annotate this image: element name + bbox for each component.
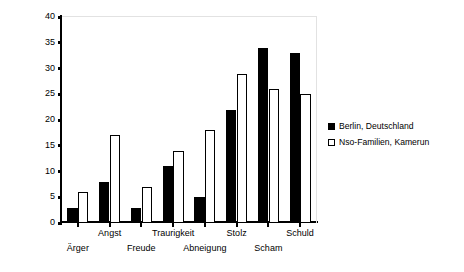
legend-item: Berlin, Deutschland — [328, 119, 460, 133]
bar — [194, 197, 204, 223]
y-axis-tick-label: 15 — [25, 140, 55, 151]
x-axis-category-label: Freude — [127, 243, 156, 254]
y-axis-tick-mark — [58, 170, 62, 173]
x-axis-category-label: Stolz — [227, 228, 247, 239]
x-axis-tick-mark — [236, 223, 238, 227]
y-axis-tick-label: 25 — [25, 88, 55, 99]
y-axis-tick-label: 40 — [25, 11, 55, 22]
y-axis-tick-mark — [58, 41, 62, 44]
y-axis-tick-label: 0 — [25, 217, 55, 228]
x-axis-tick-mark — [77, 223, 79, 227]
y-axis-tick-mark — [58, 144, 62, 147]
y-axis-tick-label: 5 — [25, 191, 55, 202]
x-axis-category-label: Angst — [98, 228, 121, 239]
bar — [163, 166, 173, 223]
y-axis-tick-label: 35 — [25, 37, 55, 48]
bar — [67, 208, 77, 223]
bar — [290, 53, 300, 223]
y-axis-tick-mark — [58, 67, 62, 70]
bar — [258, 48, 268, 223]
bar — [226, 110, 236, 223]
bar — [142, 187, 152, 223]
bar — [237, 74, 247, 223]
bar-chart-figure: Alter in Monaten (Durchschnittswerte) 05… — [0, 0, 464, 272]
y-axis-tick-mark — [58, 222, 62, 225]
legend-label: Nso-Familien, Kamerun — [339, 137, 429, 147]
bar — [99, 182, 109, 223]
bar — [78, 192, 88, 223]
chart-legend: Berlin, DeutschlandNso-Familien, Kamerun — [328, 119, 460, 151]
y-axis-tick-mark — [58, 119, 62, 122]
legend-swatch-icon — [328, 139, 335, 146]
x-axis-category-label: Abneigung — [183, 243, 226, 254]
y-axis-tick-mark — [58, 93, 62, 96]
x-axis-category-label: Traurigkeit — [152, 228, 194, 239]
y-axis-tick-mark — [58, 196, 62, 199]
bar — [131, 208, 141, 223]
plot-area: 0510152025303540 — [62, 16, 317, 223]
bar — [205, 130, 215, 223]
bar — [269, 89, 279, 223]
y-axis-tick-label: 10 — [25, 166, 55, 177]
bar — [173, 151, 183, 223]
y-axis-tick-mark — [58, 16, 62, 19]
y-axis-tick-label: 20 — [25, 114, 55, 125]
legend-label: Berlin, Deutschland — [339, 121, 414, 131]
legend-swatch-icon — [328, 123, 335, 130]
x-axis-category-label: Scham — [254, 243, 282, 254]
x-axis-tick-mark — [299, 223, 301, 227]
x-axis-tick-mark — [109, 223, 111, 227]
legend-item: Nso-Familien, Kamerun — [328, 135, 460, 149]
x-axis-category-label: Schuld — [286, 228, 314, 239]
bar — [110, 135, 120, 223]
bar — [300, 94, 310, 223]
x-axis-tick-mark — [172, 223, 174, 227]
x-axis-category-label: Ärger — [67, 243, 89, 254]
x-axis-tick-mark — [267, 223, 269, 227]
x-axis-tick-mark — [140, 223, 142, 227]
x-axis-tick-mark — [204, 223, 206, 227]
y-axis-tick-label: 30 — [25, 63, 55, 74]
